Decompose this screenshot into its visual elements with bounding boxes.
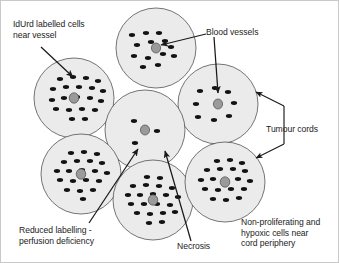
labelled-cell (76, 85, 82, 89)
blood-vessel (213, 99, 222, 109)
label-necrosis: Necrosis (177, 241, 210, 252)
labelled-cell (141, 202, 147, 206)
labelled-cell (100, 89, 106, 93)
bracket-upper-arrow (256, 92, 284, 106)
labelled-cell (87, 96, 93, 100)
label-hypoxic-line1: Non-proliferating and (241, 217, 320, 227)
labelled-cell (130, 184, 136, 188)
labelled-cell (81, 150, 87, 154)
labelled-cell (134, 43, 140, 47)
bottom-center-cord (113, 160, 193, 240)
blood-vessel (220, 177, 230, 187)
labelled-cell (79, 107, 85, 111)
labelled-cell (61, 160, 67, 164)
label-tumour-cords: Tumour cords (266, 124, 318, 135)
labelled-cell (70, 179, 76, 183)
labelled-cell (98, 99, 104, 103)
labelled-cell (228, 187, 234, 191)
labelled-cell (202, 187, 208, 191)
label-idurd: IdUrd labelled cellsnear vessel (13, 19, 85, 40)
blood-vessel (151, 43, 160, 53)
labelled-cell (230, 167, 236, 171)
labelled-cell (168, 45, 174, 49)
labelled-cell (87, 159, 93, 163)
labelled-cell (57, 178, 63, 182)
labelled-cell (236, 196, 242, 200)
label-hypoxic-line3: cord periphery (241, 238, 295, 248)
labelled-cell (134, 211, 140, 215)
labelled-cell (167, 203, 173, 207)
labelled-cell (125, 193, 131, 197)
labelled-cell (160, 52, 166, 56)
labelled-cell (225, 90, 231, 94)
labelled-cell (64, 188, 70, 192)
top-cord (116, 8, 196, 88)
labelled-cell (242, 169, 248, 173)
labelled-cell (171, 54, 177, 58)
labelled-cell (156, 184, 162, 188)
labelled-cell (129, 33, 135, 37)
labelled-cell (68, 151, 74, 155)
labelled-cell (53, 107, 59, 111)
labelled-cell (156, 31, 162, 35)
label-idurd-line2: near vessel (13, 30, 56, 40)
labelled-cell (66, 108, 72, 112)
labelled-cell (169, 186, 175, 190)
labelled-cell (210, 197, 216, 201)
labelled-cell (211, 118, 217, 122)
labelled-cell (77, 189, 83, 193)
bottom-left-cord (41, 134, 121, 214)
label-hypoxic-cells: Non-proliferating andhypoxic cells nearc… (241, 217, 320, 249)
label-tumour-cords-line1: Tumour cords (266, 124, 318, 134)
labelled-cell (197, 89, 203, 93)
labelled-cell (128, 202, 134, 206)
right-upper-cord (178, 64, 258, 144)
left-cord (34, 58, 114, 138)
labelled-cell (204, 168, 210, 172)
bracket-lower-arrow (256, 144, 284, 158)
labelled-cell (214, 159, 220, 163)
labelled-cell (83, 76, 89, 80)
labelled-cell (231, 101, 237, 105)
labelled-cell (143, 183, 149, 187)
labelled-cell (155, 63, 161, 67)
labelled-cell (247, 179, 253, 183)
labelled-cell (89, 86, 95, 90)
labelled-cell (54, 169, 60, 173)
labelled-cell (154, 129, 160, 133)
labelled-cell (147, 212, 153, 216)
blood-vessel (148, 195, 158, 205)
labelled-cell (223, 198, 229, 202)
labelled-cell (227, 158, 233, 162)
labelled-cell (131, 119, 137, 123)
labelled-cell (61, 96, 67, 100)
labelled-cell (160, 211, 166, 215)
labelled-cell (131, 54, 137, 58)
labelled-cell (143, 31, 149, 35)
labelled-cell (195, 115, 201, 119)
labelled-cell (157, 176, 163, 180)
labelled-cell (50, 87, 56, 91)
labelled-cell (140, 65, 146, 69)
label-reduced-labelling-line2: perfusion deficiency (19, 236, 94, 246)
blood-vessel (69, 93, 79, 103)
label-blood-vessels-line1: Blood vessels (206, 27, 258, 37)
label-reduced-labelling: Reduced labelling -perfusion deficiency (19, 225, 94, 246)
label-hypoxic-line2: hypoxic cells near (241, 228, 308, 238)
labelled-cell (132, 141, 138, 145)
labelled-cell (90, 188, 96, 192)
labelled-cell (82, 117, 88, 121)
labelled-cell (215, 188, 221, 192)
labelled-cell (92, 108, 98, 112)
labelled-cell (146, 221, 152, 225)
tumour-cord-diagram: IdUrd labelled cellsnear vessel Blood ve… (0, 0, 339, 263)
labelled-cell (80, 197, 86, 201)
labelled-cell (94, 152, 100, 156)
labelled-cell (74, 159, 80, 163)
labelled-cell (172, 210, 178, 214)
labelled-cell (92, 169, 98, 173)
label-reduced-labelling-line1: Reduced labelling - (19, 225, 92, 235)
label-idurd-line1: IdUrd labelled cells (13, 19, 85, 29)
labelled-cell (95, 79, 101, 83)
labelled-cell (239, 161, 245, 165)
